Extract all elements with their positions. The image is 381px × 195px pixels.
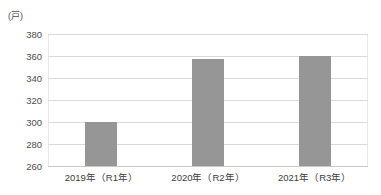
x-axis-tick-labels: 2019年（R1年）2020年（R2年）2021年（R3年） — [48, 170, 368, 190]
plot-area — [48, 34, 368, 166]
y-axis-tick-360: 360 — [2, 51, 42, 62]
y-axis-unit-label: (戸) — [8, 9, 23, 22]
y-axis-tick-340: 340 — [2, 73, 42, 84]
bar-2020年（R2年） — [192, 59, 224, 166]
bar-2019年（R1年） — [85, 122, 117, 166]
bar-chart-figure: (戸) 380360340320300280260 2019年（R1年）2020… — [0, 0, 381, 195]
y-axis-tick-260: 260 — [2, 161, 42, 172]
y-axis-tick-380: 380 — [2, 29, 42, 40]
y-axis-tick-280: 280 — [2, 139, 42, 150]
y-axis-tick-320: 320 — [2, 95, 42, 106]
x-axis-tick-2: 2021年（R3年） — [261, 170, 368, 184]
y-axis-tick-labels: 380360340320300280260 — [0, 34, 42, 166]
bar-slot — [48, 34, 155, 166]
x-axis-tick-1: 2020年（R2年） — [155, 170, 262, 184]
x-axis-tick-0: 2019年（R1年） — [48, 170, 155, 184]
bar-slot — [155, 34, 262, 166]
bar-slot — [261, 34, 368, 166]
y-axis-tick-300: 300 — [2, 117, 42, 128]
gridline-260 — [48, 166, 368, 167]
bar-2021年（R3年） — [299, 56, 331, 166]
